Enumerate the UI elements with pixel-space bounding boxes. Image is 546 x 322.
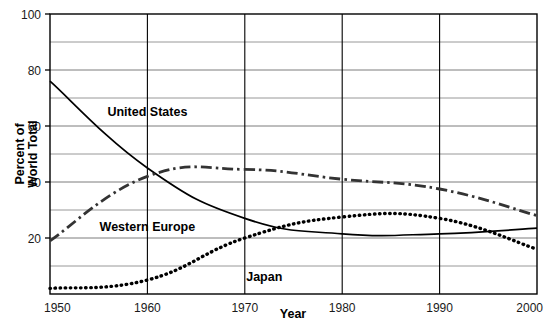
y-axis-title-line1: Percent of: [13, 123, 27, 185]
line-chart: 20406080100 195019601970198019902000 Uni…: [0, 0, 546, 322]
y-axis-tick-marks: [45, 14, 50, 238]
chart-container: 20406080100 195019601970198019902000 Uni…: [0, 0, 546, 322]
series-label-western-europe: Western Europe: [100, 220, 196, 234]
series-label-united-states: United States: [107, 105, 187, 119]
x-tick-label: 1960: [134, 301, 161, 315]
series-inline-labels: United StatesWestern EuropeJapan: [100, 105, 283, 284]
x-tick-label: 1950: [44, 301, 71, 315]
x-tick-label: 2000: [516, 301, 543, 315]
series-label-japan: Japan: [246, 270, 282, 284]
x-tick-label: 1970: [231, 301, 258, 315]
x-tick-label: 1980: [329, 301, 356, 315]
y-axis-title-line2: World Total: [26, 120, 40, 188]
x-axis-title: Year: [280, 307, 307, 321]
y-tick-label: 80: [28, 64, 42, 78]
y-tick-label: 100: [21, 8, 41, 22]
y-tick-label: 20: [28, 232, 42, 246]
x-tick-label: 1990: [426, 301, 453, 315]
